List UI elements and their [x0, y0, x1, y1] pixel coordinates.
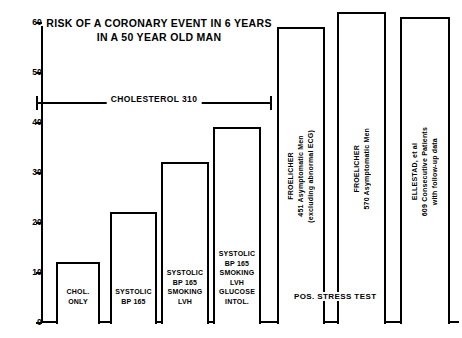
y-tick-40: 40: [0, 122, 42, 124]
y-tick-30: 30: [0, 172, 42, 174]
bar: ELLESTAD, et al 609 Consecutive Patients…: [400, 17, 450, 324]
y-tick-10: 10: [0, 272, 42, 274]
bar-label: SYSTOLIC BP 165: [112, 287, 155, 306]
bar-label: CHOL. ONLY: [58, 287, 98, 306]
bracket-label: CHOLESTEROL 310: [107, 94, 202, 104]
bar: SYSTOLIC BP 165 SMOKING LVH GLUCOSE INTO…: [213, 127, 261, 324]
y-tick-20: 20: [0, 222, 42, 224]
chart-title: RISK OF A CORONARY EVENT IN 6 YEARS IN A…: [28, 16, 290, 44]
y-tick-mark: [36, 222, 42, 224]
bar-label: FROELICHER 451 Asymptomatic Men (excludi…: [286, 130, 316, 223]
bracket-cap-left: [36, 96, 38, 110]
y-tick-mark: [36, 322, 42, 324]
y-tick-mark: [36, 72, 42, 74]
y-tick-mark: [36, 272, 42, 274]
cholesterol-bracket: CHOLESTEROL 310: [36, 96, 272, 110]
y-tick-mark: [36, 22, 42, 24]
y-tick-60: 60: [0, 22, 42, 24]
coronary-risk-bar-chart: RISK OF A CORONARY EVENT IN 6 YEARS IN A…: [0, 0, 462, 338]
y-tick-0: 0: [0, 322, 42, 324]
bar: SYSTOLIC BP 165 SMOKING LVH: [161, 162, 209, 324]
bar-label-wrap: FROELICHER 451 Asymptomatic Men (excludi…: [279, 29, 323, 324]
bar-label-wrap: FROELICHER 570 Asymptomatic Men: [339, 14, 384, 324]
bar-label: ELLESTAD, et al 609 Consecutive Patients…: [410, 127, 440, 216]
y-tick-50: 50: [0, 72, 42, 74]
bar: SYSTOLIC BP 165: [110, 212, 157, 324]
bar: FROELICHER 451 Asymptomatic Men (excludi…: [277, 27, 325, 324]
pos-stress-test-annotation: POS. STRESS TEST: [292, 292, 378, 301]
bar-label: SYSTOLIC BP 165 SMOKING LVH GLUCOSE INTO…: [215, 249, 259, 306]
y-tick-mark: [36, 122, 42, 124]
bar: CHOL. ONLY: [56, 262, 100, 324]
y-tick-mark: [36, 172, 42, 174]
bar-label: SYSTOLIC BP 165 SMOKING LVH: [163, 268, 207, 306]
bar: FROELICHER 570 Asymptomatic Men: [337, 12, 386, 324]
bar-label: FROELICHER 570 Asymptomatic Men: [352, 128, 372, 210]
bar-label-wrap: ELLESTAD, et al 609 Consecutive Patients…: [402, 19, 448, 324]
bracket-cap-right: [270, 96, 272, 110]
